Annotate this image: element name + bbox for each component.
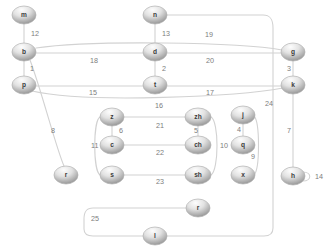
graph-node[interactable]: z xyxy=(100,108,124,126)
graph-node[interactable]: d xyxy=(143,43,167,61)
graph-node[interactable]: p xyxy=(12,76,36,94)
graph-node[interactable]: j xyxy=(231,106,255,124)
edge-labels-layer: 1211323182019151716861121222351049247142… xyxy=(30,29,323,223)
graph-node[interactable]: c xyxy=(100,136,124,154)
graph-node[interactable]: r xyxy=(54,166,78,184)
graph-edge[interactable] xyxy=(84,208,186,236)
edge-weight-label: 16 xyxy=(155,101,163,110)
node-label: m xyxy=(21,11,27,18)
graph-node[interactable]: ch xyxy=(185,136,211,154)
edge-weight-label: 3 xyxy=(287,64,291,73)
node-label: j xyxy=(241,111,244,119)
edge-weight-label: 11 xyxy=(91,141,98,150)
edge-weight-label: 23 xyxy=(156,177,164,186)
node-label: b xyxy=(22,48,26,55)
graph-node[interactable]: n xyxy=(143,6,167,24)
edge-weight-label: 1 xyxy=(30,64,34,73)
edge-weight-label: 24 xyxy=(265,99,273,108)
graph-node[interactable]: sh xyxy=(185,166,211,184)
graph-node[interactable]: l xyxy=(143,227,167,245)
graph-edge[interactable] xyxy=(30,60,64,166)
node-label: h xyxy=(291,172,295,179)
edge-weight-label: 19 xyxy=(205,30,213,39)
edges-layer xyxy=(24,15,310,236)
edge-weight-label: 25 xyxy=(91,214,99,223)
edge-weight-label: 15 xyxy=(89,88,97,97)
node-label: s xyxy=(110,171,114,178)
diagram-canvas: 1211323182019151716861121222351049247142… xyxy=(0,0,326,250)
edge-weight-label: 20 xyxy=(206,56,214,65)
edge-weight-label: 22 xyxy=(156,148,164,157)
edge-weight-label: 17 xyxy=(206,88,214,97)
graph-node[interactable]: g xyxy=(281,43,305,61)
edge-weight-label: 8 xyxy=(51,126,55,135)
node-label: g xyxy=(291,48,295,56)
graph-node[interactable]: x xyxy=(231,166,255,184)
graph-node[interactable]: b xyxy=(12,43,36,61)
edge-weight-label: 5 xyxy=(194,126,198,135)
edge-weight-label: 10 xyxy=(220,141,228,150)
node-label: r xyxy=(197,204,200,211)
graph-node[interactable]: r xyxy=(186,199,210,217)
edge-weight-label: 14 xyxy=(315,172,323,181)
node-label: k xyxy=(291,81,295,88)
node-label: q xyxy=(241,141,245,149)
edge-weight-label: 6 xyxy=(119,126,123,135)
node-label: x xyxy=(241,171,245,178)
node-label: c xyxy=(110,141,114,148)
node-label: zh xyxy=(194,113,201,120)
graph-svg: 1211323182019151716861121222351049247142… xyxy=(0,0,326,250)
graph-node[interactable]: k xyxy=(281,76,305,94)
graph-node[interactable]: zh xyxy=(185,108,211,126)
node-label: p xyxy=(22,81,26,89)
graph-node[interactable]: t xyxy=(143,76,167,94)
edge-weight-label: 18 xyxy=(90,56,98,65)
edge-weight-label: 21 xyxy=(156,121,164,130)
edge-weight-label: 9 xyxy=(251,152,255,161)
node-label: l xyxy=(154,232,156,239)
node-label: n xyxy=(153,11,157,18)
node-label: ch xyxy=(194,141,202,148)
graph-node[interactable]: s xyxy=(100,166,124,184)
node-label: r xyxy=(65,171,68,178)
edge-weight-label: 13 xyxy=(162,29,170,38)
edge-weight-label: 7 xyxy=(287,126,291,135)
graph-node[interactable]: m xyxy=(12,6,36,24)
graph-node[interactable]: h xyxy=(281,167,305,185)
edge-weight-label: 12 xyxy=(31,29,39,38)
graph-edge[interactable] xyxy=(211,117,217,175)
graph-node[interactable]: q xyxy=(231,136,255,154)
edge-weight-label: 4 xyxy=(237,125,241,134)
node-label: sh xyxy=(194,171,202,178)
node-label: d xyxy=(153,48,157,55)
edge-weight-label: 2 xyxy=(162,64,166,73)
